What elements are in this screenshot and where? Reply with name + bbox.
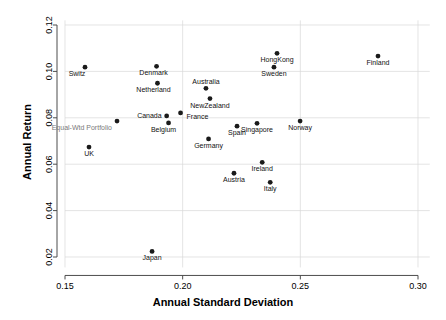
data-point-label: Germany: [194, 142, 223, 150]
data-point: [272, 65, 277, 70]
data-point: [164, 114, 169, 119]
data-point-label: Sweden: [261, 70, 286, 77]
svg-text:0.20: 0.20: [174, 281, 192, 291]
data-point-label: Belgium: [151, 126, 176, 134]
data-point: [260, 160, 265, 165]
data-point-label: NewZealand: [190, 102, 229, 109]
data-point-label: Japan: [143, 254, 162, 262]
data-point: [87, 145, 92, 150]
data-points: [83, 51, 381, 254]
svg-text:0.04: 0.04: [44, 202, 54, 220]
svg-text:0.30: 0.30: [409, 281, 427, 291]
axis-lines: [53, 25, 418, 279]
data-point: [204, 86, 209, 91]
gridlines: [65, 20, 430, 267]
data-point: [232, 171, 237, 176]
scatter-chart-figure: 0.020.040.060.080.100.120.150.200.250.30…: [0, 0, 446, 320]
plot-area: 0.020.040.060.080.100.120.150.200.250.30…: [0, 0, 446, 320]
svg-text:0.12: 0.12: [44, 16, 54, 34]
data-point: [275, 51, 280, 56]
data-point: [166, 121, 171, 126]
svg-text:0.15: 0.15: [56, 281, 74, 291]
data-point-label: Singapore: [241, 126, 273, 134]
svg-text:0.06: 0.06: [44, 155, 54, 173]
data-point: [83, 65, 88, 70]
data-point: [154, 64, 159, 69]
data-point-label: Austria: [223, 176, 245, 183]
data-point-label: Ireland: [252, 165, 274, 172]
data-point: [208, 96, 213, 101]
data-point: [235, 124, 240, 129]
svg-text:0.25: 0.25: [292, 281, 310, 291]
data-point: [178, 111, 183, 116]
data-point-label: Norway: [288, 124, 312, 132]
data-point: [376, 54, 381, 59]
tick-labels: 0.020.040.060.080.100.120.150.200.250.30: [44, 16, 427, 291]
svg-text:0.10: 0.10: [44, 63, 54, 81]
data-point: [206, 137, 211, 142]
data-point: [150, 249, 155, 254]
data-point-label: Finland: [367, 59, 390, 66]
data-point: [298, 119, 303, 124]
x-axis-title: Annual Standard Deviation: [0, 296, 446, 308]
data-point-label: UK: [84, 150, 94, 157]
data-point-label: Denmark: [139, 69, 168, 76]
data-point-label: France: [187, 113, 209, 120]
data-point-labels: SwitzUKEqual-Wtd PortfolioJapanDenmarkNe…: [52, 56, 390, 262]
data-point-label: HongKong: [260, 56, 293, 64]
svg-text:0.02: 0.02: [44, 248, 54, 266]
data-point-label: Canada: [137, 112, 162, 119]
data-point-label: Switz: [69, 70, 86, 77]
data-point: [155, 81, 160, 86]
data-point: [115, 119, 120, 124]
data-point: [255, 121, 260, 126]
data-point-label: Australia: [192, 78, 219, 85]
data-point-label: Netherland: [136, 86, 170, 93]
y-axis-title: Annual Return: [21, 67, 33, 217]
data-point-label: Equal-Wtd Portfolio: [52, 124, 112, 132]
data-point: [268, 180, 273, 185]
data-point-label: Italy: [264, 185, 277, 193]
